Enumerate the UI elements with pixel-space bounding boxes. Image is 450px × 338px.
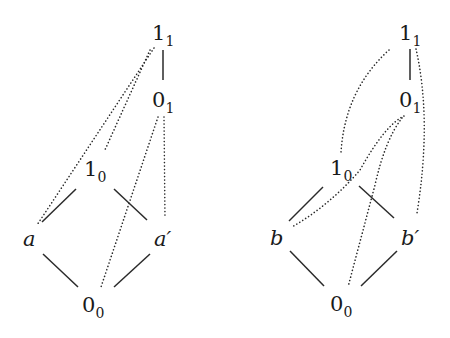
edge-a-0_0 <box>43 254 78 287</box>
dotted-edge-1_1-1_0 <box>341 50 389 152</box>
edge-1_0-bprime <box>359 186 394 218</box>
node-0_1: 01 <box>152 88 174 116</box>
edge-1_0-a <box>42 189 76 222</box>
node-1_1: 11 <box>399 21 421 49</box>
dotted-edge-1_1-1_0 <box>104 50 150 152</box>
node-0_0: 00 <box>82 293 104 321</box>
edge-b-0_0 <box>290 251 324 286</box>
node-aprime: a′ <box>154 227 172 251</box>
edge-1_0-b <box>289 187 323 221</box>
node-0_1: 01 <box>399 88 421 116</box>
dotted-edge-0_1-0_0 <box>101 117 158 287</box>
edge-bprime-0_0 <box>361 251 397 286</box>
dotted-edge-0_1-aprime <box>164 117 165 218</box>
dotted-edge-1_1-a <box>37 48 154 225</box>
node-b: b <box>270 226 283 250</box>
node-1_0: 10 <box>84 157 106 185</box>
left-lattice: 11 01 10 a a′ 00 <box>23 21 174 321</box>
edge-1_0-aprime <box>114 189 147 220</box>
node-1_0: 10 <box>330 156 352 184</box>
node-bprime: b′ <box>401 226 419 250</box>
lattice-diagrams: 11 01 10 a a′ 00 11 01 10 b b′ 00 <box>0 0 450 338</box>
dotted-edge-0_1-0_0 <box>348 118 402 287</box>
node-1_1: 11 <box>152 21 174 49</box>
node-a: a <box>23 227 36 251</box>
edge-aprime-0_0 <box>114 254 150 287</box>
dotted-edge-1_1-bprime <box>416 49 424 213</box>
diagram-canvas: 11 01 10 a a′ 00 11 01 10 b b′ 00 <box>0 0 450 338</box>
node-0_0: 00 <box>330 292 352 320</box>
right-lattice: 11 01 10 b b′ 00 <box>270 21 424 320</box>
